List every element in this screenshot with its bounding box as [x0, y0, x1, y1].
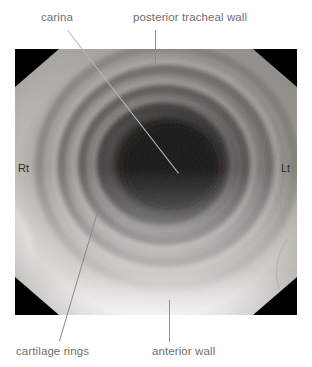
vignette [15, 49, 297, 315]
leader-line-anterior-wall [169, 300, 170, 342]
figure-container: carina posterior tracheal wall cartilage… [0, 0, 312, 367]
annotation-label-anterior-wall: anterior wall [152, 345, 215, 358]
annotation-label-carina: carina [41, 11, 73, 24]
bronchoscopy-photo [15, 49, 297, 315]
annotation-label-posterior-tracheal-wall: posterior tracheal wall [133, 11, 247, 24]
annotation-label-cartilage-rings: cartilage rings [16, 345, 89, 358]
orientation-marker-left: Lt [281, 162, 290, 174]
orientation-marker-right: Rt [18, 162, 29, 174]
leader-line-posterior-tracheal-wall [155, 30, 156, 66]
tracheal-lumen-illustration [15, 49, 297, 315]
